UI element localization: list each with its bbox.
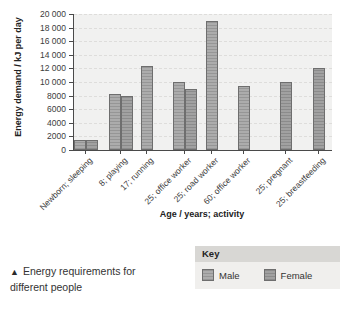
y-tick-mark [69,109,73,110]
y-tick-label: 20 000 [20,10,66,18]
y-tick-label: 4000 [20,119,66,127]
y-tick-label: 14 000 [20,51,66,59]
bar-male-1 [109,94,121,150]
legend-item-male: Male [202,269,240,281]
y-tick-mark [69,123,73,124]
caption-text: Energy requirements for different people [10,265,136,293]
bar-female-1 [121,96,133,150]
gridline [74,41,332,42]
bar-female-7 [313,68,325,150]
legend-title: Key [195,246,340,262]
y-tick-label: 0 [20,146,66,154]
y-tick-label: 6000 [20,105,66,113]
gridline [74,28,332,29]
y-tick-mark [69,28,73,29]
y-tick-label: 12 000 [20,64,66,72]
female-swatch [264,269,276,281]
caption-triangle-icon: ▲ [10,267,19,277]
bar-female-3 [185,89,197,150]
bar-male-2 [141,66,153,150]
bar-female-6 [280,82,292,150]
y-tick-mark [69,41,73,42]
bar-male-4 [206,21,218,150]
bar-male-0 [74,140,86,150]
y-tick-mark [69,136,73,137]
y-tick-mark [69,14,73,15]
energy-bar-chart: Energy demand / kJ per day Age / years; … [0,0,340,240]
y-tick-label: 2000 [20,132,66,140]
y-tick-label: 10 000 [20,78,66,86]
x-tick-mark [85,150,86,154]
figure-caption: ▲Energy requirements for different peopl… [10,264,172,295]
y-tick-mark [69,55,73,56]
y-tick-mark [69,150,73,151]
y-tick-label: 18 000 [20,24,66,32]
legend-label-female: Female [281,270,313,281]
plot-area [73,14,332,151]
y-tick-label: 16 000 [20,37,66,45]
y-tick-label: 8000 [20,92,66,100]
legend-box: Key Male Female [195,246,340,289]
x-tick-mark [120,150,121,154]
x-tick-mark [285,150,286,154]
gridline [74,55,332,56]
x-tick-mark [243,150,244,154]
male-swatch [202,269,214,281]
page: Energy demand / kJ per day Age / years; … [0,0,340,314]
x-tick-mark [146,150,147,154]
bar-female-0 [86,140,98,150]
legend-item-female: Female [264,269,313,281]
x-tick-mark [211,150,212,154]
bar-male-3 [173,82,185,150]
y-tick-mark [69,68,73,69]
gridline [74,82,332,83]
x-tick-mark [318,150,319,154]
legend-items: Male Female [195,262,340,288]
gridline [74,68,332,69]
gridline [74,14,332,15]
y-tick-mark [69,96,73,97]
legend-label-male: Male [219,270,240,281]
x-tick-mark [184,150,185,154]
bar-male-5 [238,86,250,150]
y-tick-mark [69,82,73,83]
